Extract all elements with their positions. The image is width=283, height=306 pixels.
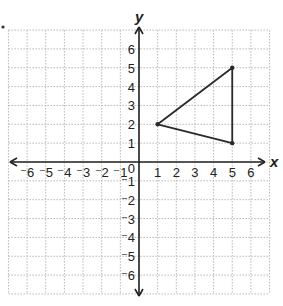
y-tick-label: 3 (128, 98, 135, 113)
x-tick-label: ⁻2 (95, 165, 109, 180)
x-tick-label: 1 (154, 165, 161, 180)
y-axis-label: y (134, 8, 144, 25)
x-tick-label: 5 (229, 165, 236, 180)
coordinate-plane: ⁻6⁻5⁻4⁻3⁻2⁻1123456⁻6⁻5⁻4⁻3⁻2⁻11234560 x … (0, 0, 283, 306)
x-tick-label: ⁻4 (57, 165, 71, 180)
y-tick-label: ⁻4 (121, 230, 135, 245)
problem-marker-dot (1, 25, 4, 28)
x-tick-label: 6 (247, 165, 254, 180)
x-tick-label: 3 (191, 165, 198, 180)
y-tick-label: ⁻2 (121, 193, 135, 208)
x-tick-label: ⁻6 (20, 165, 34, 180)
y-tick-label: 5 (128, 61, 135, 76)
y-tick-label: 1 (128, 136, 135, 151)
x-tick-label: 2 (173, 165, 180, 180)
y-tick-label: ⁻5 (121, 249, 135, 264)
x-tick-label: 4 (210, 165, 217, 180)
vertex-point (155, 122, 159, 126)
y-tick-label: 4 (128, 80, 135, 95)
vertex-point (230, 66, 234, 70)
vertex-point (230, 141, 234, 145)
y-tick-label: 6 (128, 42, 135, 57)
y-tick-label: ⁻1 (121, 174, 135, 189)
x-tick-label: ⁻5 (39, 165, 53, 180)
x-tick-label: ⁻3 (76, 165, 90, 180)
x-axis-label: x (269, 153, 279, 170)
y-tick-label: 2 (128, 117, 135, 132)
y-tick-label: ⁻3 (121, 212, 135, 227)
y-tick-label: ⁻6 (121, 268, 135, 283)
origin-label: 0 (128, 161, 135, 176)
